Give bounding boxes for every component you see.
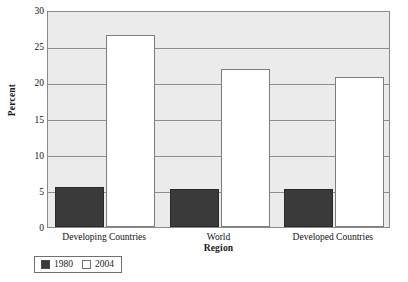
x-tick-label: Developing Countries — [62, 232, 146, 242]
y-tick-label: 30 — [35, 7, 45, 17]
legend-label: 2004 — [95, 260, 114, 270]
bar-2004-world — [221, 69, 270, 227]
x-tick-label: World — [207, 232, 231, 242]
legend-item-1980: 1980 — [41, 260, 73, 270]
chart-legend: 19802004 — [34, 256, 122, 273]
legend-label: 1980 — [54, 260, 73, 270]
bar-1980-developed-countries — [284, 189, 333, 227]
plot-area: 051015202530 — [47, 11, 390, 228]
y-tick-label: 10 — [35, 152, 45, 162]
y-tick-label: 5 — [39, 188, 44, 198]
y-tick-label: 20 — [35, 80, 45, 90]
legend-swatch-1980 — [41, 260, 50, 269]
bar-1980-world — [170, 189, 219, 227]
bar-2004-developed-countries — [335, 77, 384, 227]
x-tick-label: Developed Countries — [293, 232, 373, 242]
x-axis-title: Region — [47, 243, 390, 253]
gridline — [48, 48, 389, 49]
y-tick-label: 15 — [35, 116, 45, 126]
y-tick-label: 25 — [35, 43, 45, 53]
bar-2004-developing-countries — [106, 35, 155, 227]
bar-chart-figure: Percent 051015202530 Developing Countrie… — [0, 0, 408, 282]
y-axis-title: Percent — [7, 60, 17, 140]
bar-1980-developing-countries — [55, 187, 104, 228]
y-tick-label: 0 — [39, 224, 44, 234]
legend-item-2004: 2004 — [82, 260, 114, 270]
legend-swatch-2004 — [82, 260, 91, 269]
